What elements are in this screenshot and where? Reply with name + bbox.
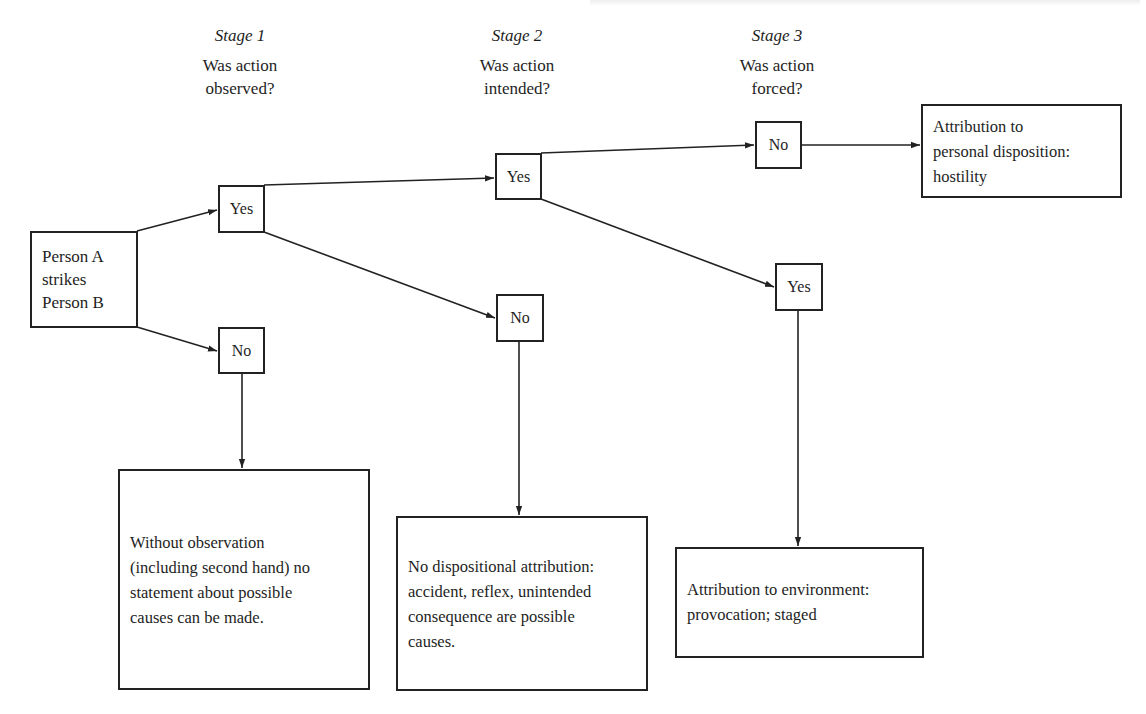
- outcome-hostility-text: Attribution to personal disposition: hos…: [933, 114, 1070, 189]
- start-node-person-a-strikes-b: Person A strikes Person B: [30, 231, 138, 328]
- edge-start-to-stage1-yes: [137, 210, 217, 231]
- stage3-yes-node: Yes: [775, 263, 823, 311]
- outcome-not-observed-text: Without observation (including second ha…: [130, 530, 310, 630]
- outcome-environment-text: Attribution to environment: provocation;…: [687, 577, 869, 627]
- outcome-hostility: Attribution to personal disposition: hos…: [921, 104, 1122, 198]
- stage-2-question: Was action intended?: [437, 54, 597, 100]
- stage-2-header: Stage 2 Was action intended?: [437, 24, 597, 100]
- stage1-yes-node: Yes: [218, 185, 265, 233]
- outcome-environment: Attribution to environment: provocation;…: [675, 547, 924, 658]
- outcome-not-intended-text: No dispositional attribution: accident, …: [408, 554, 594, 654]
- stage-3-title: Stage 3: [697, 24, 857, 47]
- stage-3-question: Was action forced?: [697, 54, 857, 100]
- edge-start-to-stage1-no: [137, 327, 217, 351]
- outcome-not-intended: No dispositional attribution: accident, …: [396, 516, 648, 691]
- stage-1-title: Stage 1: [160, 24, 320, 47]
- stage-2-title: Stage 2: [437, 24, 597, 47]
- stage2-yes-node: Yes: [495, 153, 542, 200]
- stage2-no-node: No: [496, 294, 544, 342]
- stage-1-header: Stage 1 Was action observed?: [160, 24, 320, 100]
- edge-stage2-yes-to-stage3-yes: [541, 199, 774, 287]
- edge-stage1-yes-to-stage2-yes: [264, 178, 494, 185]
- stage-1-question: Was action observed?: [160, 54, 320, 100]
- stage3-no-node: No: [755, 121, 802, 169]
- stage-3-header: Stage 3 Was action forced?: [697, 24, 857, 100]
- stage1-no-node: No: [218, 327, 265, 374]
- edge-stage1-yes-to-stage2-no: [264, 232, 495, 318]
- outcome-not-observed: Without observation (including second ha…: [118, 469, 370, 690]
- edge-stage2-yes-to-stage3-no: [541, 145, 754, 153]
